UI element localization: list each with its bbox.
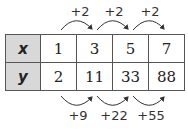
bottom-diff-1: +9 [68, 108, 87, 123]
cell: 1 [41, 35, 77, 63]
cell: 7 [149, 35, 185, 63]
row-header-y: y [6, 63, 41, 91]
cell: 11 [77, 63, 113, 91]
bottom-diff-2: +22 [100, 108, 127, 123]
cell: 88 [149, 63, 185, 91]
top-diff-3: +2 [140, 4, 159, 19]
row-header-x: x [6, 35, 41, 63]
top-diff-2: +2 [104, 4, 123, 19]
cell: 2 [41, 63, 77, 91]
top-diff-1: +2 [70, 4, 89, 19]
cell: 33 [113, 63, 149, 91]
table-row-x: x 1 3 5 7 [6, 35, 185, 63]
cell: 5 [113, 35, 149, 63]
table-row-y: y 2 11 33 88 [6, 63, 185, 91]
cell: 3 [77, 35, 113, 63]
bottom-diff-3: +55 [137, 108, 164, 123]
xy-table: x 1 3 5 7 y 2 11 33 88 [5, 34, 185, 91]
